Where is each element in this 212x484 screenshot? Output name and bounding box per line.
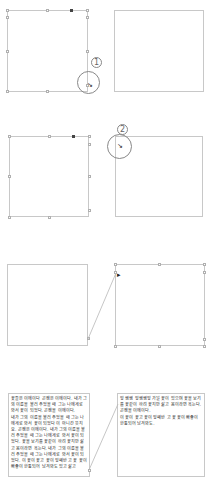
handle-top-left[interactable] <box>6 9 9 12</box>
paragraph: 내가 그의 이름을 불러 주었을 때 그는 나에게로 와서 꽃이 되었다 이 아… <box>11 415 87 471</box>
handle-top-right[interactable] <box>203 263 206 266</box>
handle-right-top[interactable] <box>86 16 89 19</box>
text-frame-selected[interactable] <box>9 136 89 217</box>
handle-top-mid[interactable] <box>46 9 49 12</box>
handle-out-port[interactable] <box>88 209 91 212</box>
handle-top-mid[interactable] <box>158 263 161 266</box>
handle-bottom-left[interactable] <box>6 90 9 93</box>
handle-in-port[interactable] <box>70 9 73 12</box>
text-frame-empty[interactable] <box>114 10 204 92</box>
text-frame-linked[interactable] <box>115 264 205 346</box>
text-frame-overflow[interactable]: 잎 쌩쌩 잎쌩쌩잎 가닐 꽃이 있으며 꽃을 보기를 꽃같이 하려 꽃지만 삶고… <box>117 393 205 477</box>
handle-bottom-left[interactable] <box>8 216 11 219</box>
paragraph: 잎 쌩쌩 잎쌩쌩잎 가닐 꽃이 있으며 꽃을 보기를 꽃같이 하려 꽃지만 삶고… <box>120 396 202 408</box>
loaded-text-cursor-icon: ↘ <box>117 143 123 150</box>
paragraph: 꽃들은 이에이다 곤쟁은 이에이다. 내가 그의 이름을 불러 주었을 때 그는… <box>11 396 87 415</box>
handle-right-top[interactable] <box>203 271 206 274</box>
link-line <box>89 404 118 470</box>
handle-in-port[interactable] <box>72 135 75 138</box>
frame-body-text: 잎 쌩쌩 잎쌩쌩잎 가닐 꽃이 있으며 꽃을 보기를 꽃같이 하려 꽃지만 삶고… <box>118 394 204 476</box>
handle-bottom-right[interactable] <box>203 345 206 348</box>
handle-left-top[interactable] <box>6 16 9 19</box>
handle-bottom-left[interactable] <box>114 345 117 348</box>
handle-bottom-mid[interactable] <box>48 216 51 219</box>
step-number-badge: 1 <box>91 57 102 68</box>
text-frame-source[interactable] <box>7 264 88 346</box>
handle-top-right[interactable] <box>88 135 91 138</box>
handle-right-mid[interactable] <box>88 175 91 178</box>
handle-right-mid[interactable] <box>86 50 89 53</box>
handle-right-top[interactable] <box>88 143 91 146</box>
pointer-cursor-icon: ▸ <box>117 272 121 279</box>
pointer-cursor-icon: ↘ <box>87 82 93 89</box>
paragraph: 이 꽃이 꽃고 꽃이 잎쌔반 고 꽃 꽃이 빠좋이 한통되어 남겨봐도. <box>120 415 202 427</box>
handle-top-left[interactable] <box>8 135 11 138</box>
handle-top-left[interactable] <box>114 263 117 266</box>
handle-left-mid[interactable] <box>6 50 9 53</box>
handle-bottom-mid[interactable] <box>46 90 49 93</box>
handle-out-port[interactable] <box>88 469 91 472</box>
handle-left-mid[interactable] <box>8 175 11 178</box>
handle-right-bottom[interactable] <box>203 338 206 341</box>
handle-bottom-mid[interactable] <box>158 345 161 348</box>
text-frame-selected[interactable] <box>7 10 88 92</box>
link-line <box>88 273 116 339</box>
text-frame-filled[interactable]: 꽃들은 이에이다 곤쟁은 이에이다. 내가 그의 이름을 불러 주었을 때 그는… <box>8 393 90 477</box>
frame-body-text: 꽃들은 이에이다 곤쟁은 이에이다. 내가 그의 이름을 불러 주었을 때 그는… <box>9 394 89 476</box>
handle-top-mid[interactable] <box>48 135 51 138</box>
handle-out-port-source[interactable] <box>87 337 90 340</box>
handle-top-right[interactable] <box>86 9 89 12</box>
